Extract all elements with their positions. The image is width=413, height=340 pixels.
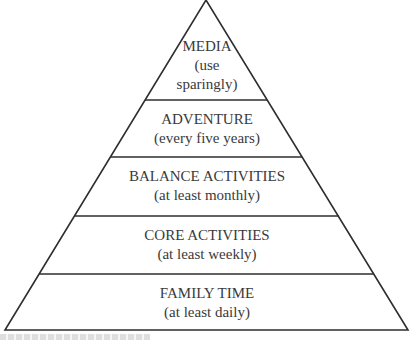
level-subtitle: (at least weekly) [144,245,269,264]
level-subtitle: (at least monthly) [129,186,285,205]
level-title: BALANCE ACTIVITIES [129,167,285,186]
level-subtitle: (at least daily) [160,303,254,322]
level-core-activities: CORE ACTIVITIES (at least weekly) [144,226,269,264]
pyramid-diagram: MEDIA (use sparingly) ADVENTURE (every f… [0,0,413,340]
level-title: ADVENTURE [154,110,260,129]
level-title: CORE ACTIVITIES [144,226,269,245]
level-media: MEDIA (use sparingly) [177,37,238,94]
level-adventure: ADVENTURE (every five years) [154,110,260,148]
level-balance-activities: BALANCE ACTIVITIES (at least monthly) [129,167,285,205]
cropped-caption-fragment [0,334,150,340]
level-family-time: FAMILY TIME (at least daily) [160,284,254,322]
level-subtitle: (every five years) [154,129,260,148]
level-title: FAMILY TIME [160,284,254,303]
level-title: MEDIA [177,37,238,56]
level-subtitle: sparingly) [177,75,238,94]
level-subtitle: (use [177,56,238,75]
